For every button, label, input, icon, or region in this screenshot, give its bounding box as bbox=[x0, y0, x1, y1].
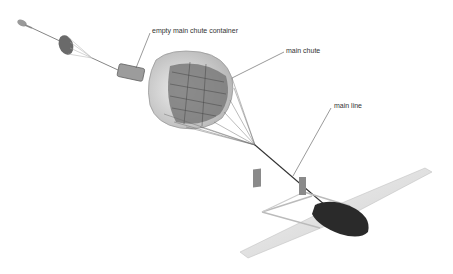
label-empty-main-chute-container: empty main chute container bbox=[152, 27, 238, 34]
drogue-chute bbox=[56, 33, 118, 70]
main-chute bbox=[148, 51, 255, 145]
uav-aircraft bbox=[240, 168, 432, 258]
diagram-canvas bbox=[0, 0, 453, 274]
label-main-line: main line bbox=[334, 102, 362, 109]
label-main-chute: main chute bbox=[286, 47, 320, 54]
main-line bbox=[255, 145, 325, 205]
empty-main-chute-container bbox=[117, 63, 145, 81]
pilot-chute-projectile bbox=[16, 18, 62, 42]
